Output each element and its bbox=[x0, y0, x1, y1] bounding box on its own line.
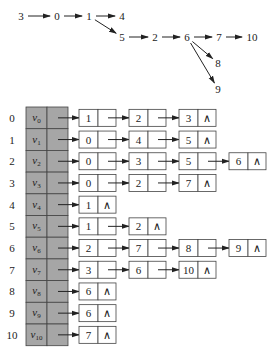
list-node-value: 6 bbox=[136, 264, 142, 276]
list-node-value: 2 bbox=[86, 242, 92, 254]
row-index: 10 bbox=[7, 329, 19, 341]
row-index: 1 bbox=[9, 134, 15, 146]
list-node-value: 5 bbox=[186, 134, 192, 146]
row-index: 7 bbox=[9, 264, 15, 276]
null-pointer-icon: ∧ bbox=[203, 112, 211, 124]
graph-node-8: 8 bbox=[215, 57, 221, 69]
list-node-value: 6 bbox=[86, 307, 92, 319]
list-node-value: 6 bbox=[236, 155, 242, 167]
list-node-value: 5 bbox=[186, 155, 192, 167]
null-pointer-icon: ∧ bbox=[103, 199, 111, 211]
graph-node-10: 10 bbox=[247, 31, 259, 43]
list-node-value: 2 bbox=[136, 177, 142, 189]
edge-6-9 bbox=[191, 43, 215, 83]
null-pointer-icon: ∧ bbox=[203, 134, 211, 146]
null-pointer-icon: ∧ bbox=[203, 264, 211, 276]
list-node-value: 7 bbox=[186, 177, 192, 189]
graph-node-5: 5 bbox=[119, 31, 125, 43]
row-index: 6 bbox=[9, 242, 15, 254]
list-node-value: 0 bbox=[86, 177, 92, 189]
row-index: 0 bbox=[9, 112, 15, 124]
list-node-value: 3 bbox=[136, 155, 142, 167]
list-node-value: 4 bbox=[136, 134, 142, 146]
list-node-value: 1 bbox=[86, 220, 92, 232]
graph-node-1: 1 bbox=[86, 10, 92, 22]
graph-node-4: 4 bbox=[119, 10, 125, 22]
list-node-value: 3 bbox=[186, 112, 192, 124]
graph: 301452671089 bbox=[18, 10, 258, 95]
row-index: 8 bbox=[9, 285, 15, 297]
row-index: 5 bbox=[9, 220, 15, 232]
null-pointer-icon: ∧ bbox=[103, 285, 111, 297]
list-node-value: 2 bbox=[136, 220, 142, 232]
list-node-value: 6 bbox=[86, 285, 92, 297]
list-node-value: 2 bbox=[136, 112, 142, 124]
null-pointer-icon: ∧ bbox=[103, 307, 111, 319]
graph-node-6: 6 bbox=[184, 31, 190, 43]
list-node-value: 0 bbox=[86, 155, 92, 167]
list-node-value: 7 bbox=[86, 329, 92, 341]
row-index: 3 bbox=[9, 177, 15, 189]
null-pointer-icon: ∧ bbox=[253, 242, 261, 254]
list-node-value: 10 bbox=[183, 264, 195, 276]
list-node-value: 1 bbox=[86, 199, 92, 211]
edge-1-5 bbox=[95, 20, 116, 33]
list-node-value: 9 bbox=[236, 242, 242, 254]
list-node-value: 7 bbox=[136, 242, 142, 254]
list-node-value: 3 bbox=[86, 264, 92, 276]
row-index: 9 bbox=[9, 307, 15, 319]
graph-node-2: 2 bbox=[152, 31, 158, 43]
list-node-value: 1 bbox=[86, 112, 92, 124]
adjacency-list-diagram: 301452671089 0v0123∧1v1045∧2v20356∧3v302… bbox=[0, 0, 277, 358]
list-node-value: 8 bbox=[186, 242, 192, 254]
graph-node-0: 0 bbox=[54, 10, 60, 22]
null-pointer-icon: ∧ bbox=[203, 177, 211, 189]
null-pointer-icon: ∧ bbox=[103, 329, 111, 341]
null-pointer-icon: ∧ bbox=[253, 155, 261, 167]
graph-node-9: 9 bbox=[215, 83, 221, 95]
row-index: 4 bbox=[9, 199, 15, 211]
edge-6-8 bbox=[192, 41, 212, 58]
graph-node-7: 7 bbox=[216, 31, 222, 43]
list-node-value: 0 bbox=[86, 134, 92, 146]
adjacency-table: 0v0123∧1v1045∧2v20356∧3v3027∧4v41∧5v512∧… bbox=[7, 107, 267, 346]
null-pointer-icon: ∧ bbox=[153, 220, 161, 232]
row-index: 2 bbox=[9, 155, 15, 167]
graph-node-3: 3 bbox=[18, 10, 24, 22]
